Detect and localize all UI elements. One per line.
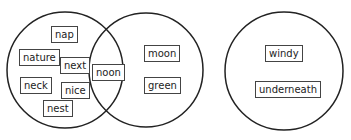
word-box-windy: windy [265,45,303,62]
word-box-nap: nap [51,26,78,43]
venn-circles [0,0,351,140]
word-box-next: next [60,57,90,74]
word-box-nice: nice [61,82,90,99]
word-box-green: green [144,77,181,94]
circle-right [225,12,343,130]
word-box-nest: nest [43,100,73,117]
word-box-nature: nature [19,49,60,66]
word-box-noon: noon [92,64,125,81]
word-box-neck: neck [20,77,52,94]
word-box-moon: moon [144,45,180,62]
word-box-underneath: underneath [255,81,321,98]
